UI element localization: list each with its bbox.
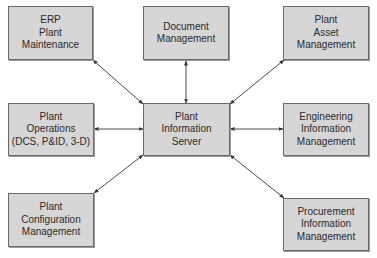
connector-asset [230, 60, 284, 104]
node-plant-asset-management: Plant Asset Management [283, 6, 369, 60]
node-label-line: Plant [40, 201, 63, 214]
connector-proc [230, 155, 284, 198]
connector-config [94, 155, 143, 193]
node-label-line: Asset [313, 27, 338, 40]
node-label-line: Management [157, 33, 215, 46]
node-label-line: Management [22, 226, 80, 239]
node-document-management: Document Management [143, 6, 229, 60]
node-label-line: ERP [40, 14, 61, 27]
node-label-line: Management [297, 136, 355, 149]
connector-erp [93, 60, 143, 104]
node-label-line: Configuration [21, 214, 80, 227]
node-label-line: Plant [315, 14, 338, 27]
node-label-line: Plant [40, 111, 63, 124]
node-engineering-information-management: Engineering Information Management [283, 103, 369, 156]
node-label-line: Management [297, 231, 355, 244]
diagram-canvas: ERP Plant Maintenance Document Managemen… [0, 0, 377, 258]
node-label-line: Plant [175, 111, 198, 124]
node-label-line: Maintenance [22, 39, 79, 52]
node-plant-operations: Plant Operations (DCS, P&ID, 3-D) [8, 103, 94, 156]
node-label-line: Plant [39, 27, 62, 40]
node-plant-configuration-management: Plant Configuration Management [8, 193, 94, 247]
node-label-line: Server [172, 136, 201, 149]
node-label-line: Engineering [299, 111, 352, 124]
node-label-line: Procurement [297, 206, 354, 219]
node-label-line: Management [297, 39, 355, 52]
node-label-line: Information [161, 123, 211, 136]
node-label-line: Operations [27, 123, 76, 136]
node-label-line: (DCS, P&ID, 3-D) [12, 136, 90, 149]
node-erp-plant-maintenance: ERP Plant Maintenance [8, 6, 93, 60]
node-label-line: Information [301, 218, 351, 231]
node-plant-information-server: Plant Information Server [143, 103, 230, 156]
node-label-line: Information [301, 123, 351, 136]
node-procurement-information-management: Procurement Information Management [283, 198, 369, 251]
node-label-line: Document [163, 21, 209, 34]
